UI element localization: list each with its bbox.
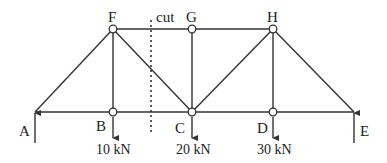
- truss-diagram: cut F G H A B C D E 10 kN 20 kN 30 kN: [0, 0, 387, 163]
- support-reactions: [35, 113, 354, 143]
- joint-G: [188, 25, 196, 33]
- joint-label-F: F: [108, 9, 116, 25]
- member-AF: [35, 29, 113, 112]
- load-label-B: 10 kN: [96, 142, 131, 157]
- truss-members: [35, 29, 354, 112]
- member-CH: [192, 29, 273, 112]
- joint-label-H: H: [267, 9, 278, 25]
- joint-label-E: E: [360, 123, 369, 139]
- joint-F: [109, 25, 117, 33]
- joint-C: [188, 108, 196, 116]
- joint-label-C: C: [175, 120, 185, 136]
- joint-B: [109, 108, 117, 116]
- joint-label-B: B: [96, 118, 106, 134]
- joint-label-D: D: [257, 120, 268, 136]
- joint-label-G: G: [186, 9, 197, 25]
- load-arrows: [113, 117, 273, 138]
- joint-H: [269, 25, 277, 33]
- joint-label-A: A: [19, 123, 30, 139]
- member-FC: [113, 29, 192, 112]
- member-HE: [273, 29, 354, 112]
- load-label-C: 20 kN: [176, 142, 211, 157]
- cut-label: cut: [156, 9, 175, 25]
- truss-joints: [109, 25, 277, 116]
- joint-D: [269, 108, 277, 116]
- load-label-D: 30 kN: [257, 142, 292, 157]
